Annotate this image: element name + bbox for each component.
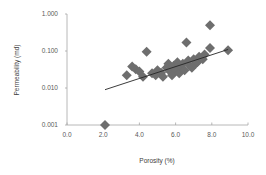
y-tick-label: 1.000 [42, 10, 59, 17]
x-tick-label: 8.0 [207, 131, 216, 138]
data-point-diamond [205, 20, 215, 30]
scatter-chart: 0.0010.0100.1001.000 0.02.04.06.08.010.0… [0, 0, 266, 175]
y-tick-label: 0.001 [42, 121, 59, 128]
data-point-diamond [181, 37, 191, 47]
y-tick-label: 0.010 [42, 84, 59, 91]
trendline [105, 49, 228, 89]
x-tick-label: 6.0 [171, 131, 180, 138]
y-axis-title: Permeability (md) [13, 45, 21, 96]
data-point-diamond [122, 70, 132, 80]
x-tick-label: 10.0 [242, 131, 255, 138]
x-tick-label: 2.0 [99, 131, 108, 138]
y-tick-label: 0.100 [42, 47, 59, 54]
x-tick-label: 0.0 [62, 131, 71, 138]
x-tick-label: 4.0 [135, 131, 144, 138]
y-axis-ticks: 0.0010.0100.1001.000 [42, 10, 67, 128]
data-point-diamond [142, 47, 152, 57]
data-points [100, 20, 233, 130]
x-axis-title: Porosity (%) [139, 157, 174, 165]
plot-area: 0.0010.0100.1001.000 0.02.04.06.08.010.0 [42, 10, 255, 138]
data-point-diamond [100, 120, 110, 130]
